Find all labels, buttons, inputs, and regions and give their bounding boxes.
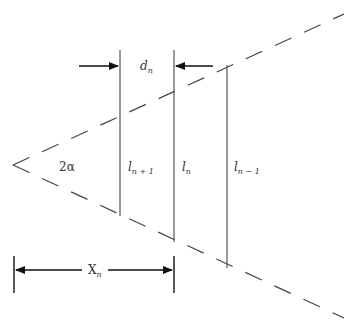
wedge-upper-side (13, 14, 344, 165)
angle-label: 2α (59, 160, 75, 174)
wedge-diagram: 2α dn ln + 1 ln ln − 1 Xn (0, 0, 344, 326)
line-l-n-label: ln (182, 160, 191, 176)
line-l-n-minus-1-label: ln − 1 (234, 160, 260, 176)
wedge-lower-side (13, 165, 344, 318)
distance-label: Xn (88, 263, 102, 279)
line-l-n-plus-1-label: ln + 1 (128, 160, 154, 176)
gap-label: dn (140, 59, 153, 75)
